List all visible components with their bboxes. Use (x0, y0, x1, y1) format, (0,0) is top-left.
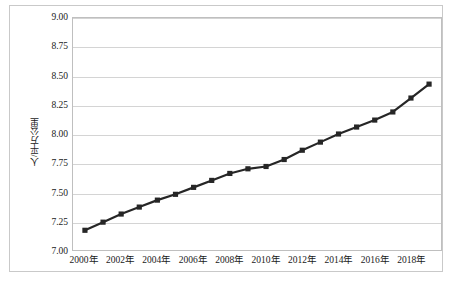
series-line (85, 84, 429, 230)
data-point-marker (318, 140, 323, 145)
data-point-marker (372, 118, 377, 123)
data-point-marker (408, 95, 413, 100)
data-point-marker (336, 131, 341, 136)
x-tick-label: 2016年 (361, 254, 390, 266)
x-tick-label: 2008年 (215, 254, 244, 266)
plot-area (72, 17, 442, 251)
y-tick-label: 7.25 (38, 217, 68, 227)
data-point-marker (155, 198, 160, 203)
x-axis-tick-labels: 2000年2002年2004年2006年2008年2010年2012年2014年… (72, 254, 442, 270)
data-point-marker (119, 211, 124, 216)
data-point-marker (100, 220, 105, 225)
data-point-marker (300, 148, 305, 153)
x-tick-label: 2004年 (142, 254, 171, 266)
y-tick-label: 8.75 (38, 41, 68, 51)
data-point-marker (245, 166, 250, 171)
x-tick-label: 2002年 (106, 254, 135, 266)
data-point-marker (209, 178, 214, 183)
data-point-marker (282, 157, 287, 162)
y-axis-tick-labels: 7.007.257.507.758.008.258.508.759.00 (38, 17, 68, 251)
y-tick-label: 7.50 (38, 188, 68, 198)
chart-outer-frame: 人/平方公里 7.007.257.507.758.008.258.508.759… (9, 5, 443, 272)
y-tick-label: 8.50 (38, 71, 68, 81)
data-point-marker (191, 185, 196, 190)
data-point-marker (82, 228, 87, 233)
y-tick-label: 9.00 (38, 12, 68, 22)
data-point-marker (137, 205, 142, 210)
line-series (73, 18, 441, 250)
data-point-marker (263, 164, 268, 169)
x-tick-label: 2010年 (252, 254, 281, 266)
data-point-marker (227, 171, 232, 176)
data-point-marker (390, 109, 395, 114)
y-tick-label: 8.25 (38, 100, 68, 110)
x-tick-label: 2006年 (179, 254, 208, 266)
data-point-marker (426, 82, 431, 87)
x-tick-label: 2018年 (397, 254, 426, 266)
data-point-marker (354, 124, 359, 129)
y-tick-label: 8.00 (38, 129, 68, 139)
data-point-marker (173, 192, 178, 197)
y-tick-label: 7.75 (38, 158, 68, 168)
y-tick-label: 7.00 (38, 246, 68, 256)
x-tick-label: 2014年 (324, 254, 353, 266)
x-tick-label: 2000年 (70, 254, 99, 266)
x-tick-label: 2012年 (288, 254, 317, 266)
